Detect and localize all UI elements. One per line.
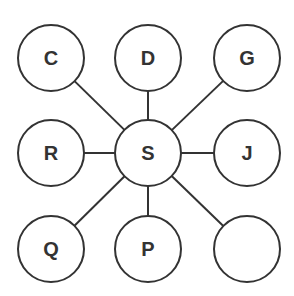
edge-s-q [74, 176, 124, 226]
node-label: R [44, 142, 59, 164]
nodes: SCDGRJQP [18, 25, 280, 282]
node-label: P [141, 238, 154, 260]
node-label: S [141, 142, 154, 164]
node-s: S [115, 120, 181, 186]
node-label: Q [43, 238, 59, 260]
node-circle [214, 216, 280, 282]
edge-s-c [75, 81, 125, 130]
star-diagram: SCDGRJQP [0, 0, 294, 296]
node-d: D [115, 25, 181, 91]
node-g: G [214, 25, 280, 91]
diagram-svg: SCDGRJQP [0, 0, 294, 296]
edge-s-g [172, 81, 223, 130]
node-blank [214, 216, 280, 282]
node-q: Q [18, 216, 84, 282]
edge-s-blank [172, 176, 224, 226]
node-label: D [141, 47, 155, 69]
node-label: J [241, 142, 252, 164]
node-label: C [44, 47, 58, 69]
node-r: R [18, 120, 84, 186]
node-label: G [239, 47, 255, 69]
node-p: P [115, 216, 181, 282]
node-c: C [18, 25, 84, 91]
node-j: J [214, 120, 280, 186]
